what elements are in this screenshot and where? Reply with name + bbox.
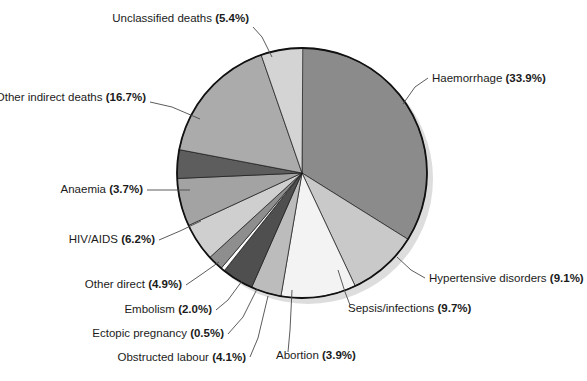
slice-label-percent-anaemia: (3.7%) [109,183,143,195]
slice-label-hiv-aids: HIV/AIDS (6.2%) [69,233,155,245]
leader-line-ectopic-pregnancy [228,289,257,334]
slice-label-name-obstructed-labour: Obstructed labour [118,351,213,363]
slice-label-sepsis-infections: Sepsis/infections (9.7%) [348,302,472,314]
slice-label-percent-abortion: (3.9%) [322,349,356,361]
slice-label-name-other-indirect-deaths: Other indirect deaths [0,91,106,103]
slice-label-obstructed-labour: Obstructed labour (4.1%) [118,351,247,363]
leader-line-obstructed-labour [250,296,268,357]
slice-label-percent-unclassified-deaths: (5.4%) [215,12,249,24]
slice-label-name-hypertensive-disorders: Hypertensive disorders [429,272,550,284]
slice-label-abortion: Abortion (3.9%) [276,349,356,361]
leader-line-embolism [216,281,242,310]
slice-label-name-sepsis-infections: Sepsis/infections [348,302,438,314]
slice-label-percent-hypertensive-disorders: (9.1%) [550,272,584,284]
slice-label-percent-hiv-aids: (6.2%) [121,233,155,245]
slice-label-unclassified-deaths: Unclassified deaths (5.4%) [112,12,249,24]
slice-label-hypertensive-disorders: Hypertensive disorders (9.1%) [429,272,584,284]
leader-line-other-direct [186,262,219,285]
slice-label-percent-other-direct: (4.9%) [148,278,182,290]
slice-label-percent-embolism: (2.0%) [178,303,212,315]
slice-label-percent-sepsis-infections: (9.7%) [438,302,472,314]
slice-label-other-indirect-deaths: Other indirect deaths (16.7%) [0,91,146,103]
pie-chart-svg: Unclassified deaths (5.4%)Haemorrhage (3… [0,0,587,381]
slice-label-anaemia: Anaemia (3.7%) [61,183,144,195]
slice-label-other-direct: Other direct (4.9%) [85,278,182,290]
slice-label-name-ectopic-pregnancy: Ectopic pregnancy [92,327,190,339]
slice-label-haemorrhage: Haemorrhage (33.9%) [432,72,546,84]
slice-label-percent-ectopic-pregnancy: (0.5%) [190,327,224,339]
slice-label-name-other-direct: Other direct [85,278,148,290]
pie-slices-group [177,48,427,298]
slice-label-percent-obstructed-labour: (4.1%) [212,351,246,363]
leader-line-haemorrhage [403,78,428,104]
slice-label-name-hiv-aids: HIV/AIDS [69,233,121,245]
pie-chart-figure: Unclassified deaths (5.4%)Haemorrhage (3… [0,0,587,381]
slice-label-name-embolism: Embolism [124,303,178,315]
slice-label-name-haemorrhage: Haemorrhage [432,72,506,84]
slice-label-name-unclassified-deaths: Unclassified deaths [112,12,215,24]
slice-label-ectopic-pregnancy: Ectopic pregnancy (0.5%) [92,327,224,339]
slice-label-percent-other-indirect-deaths: (16.7%) [106,91,146,103]
slice-label-name-anaemia: Anaemia [61,183,110,195]
slice-label-name-abortion: Abortion [276,349,322,361]
slice-label-embolism: Embolism (2.0%) [124,303,212,315]
slice-label-percent-haemorrhage: (33.9%) [506,72,546,84]
